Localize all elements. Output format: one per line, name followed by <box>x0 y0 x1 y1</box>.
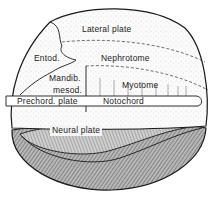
label-prechordal-plate: Prechord. plate <box>17 97 78 106</box>
label-mandibular-mesoderm-2: mesod. <box>53 86 82 95</box>
label-neural-plate: Neural plate <box>50 125 102 136</box>
label-notochord: Notochord <box>103 97 144 106</box>
label-myotome: Myotome <box>122 81 158 90</box>
label-nephrotome: Nephrotome <box>101 54 150 63</box>
label-mandibular-mesoderm-1: Mandib. <box>49 74 81 83</box>
label-lateral-plate: Lateral plate <box>82 25 131 34</box>
label-entoderm: Entod. <box>34 54 60 63</box>
